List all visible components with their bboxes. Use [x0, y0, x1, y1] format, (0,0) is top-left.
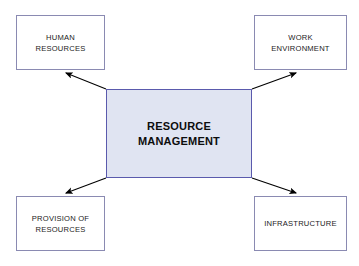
node-human-resources[interactable]: HUMAN RESOURCES	[16, 15, 105, 70]
node-work-environment[interactable]: WORK ENVIRONMENT	[254, 15, 347, 70]
node-human-resources-label: HUMAN RESOURCES	[36, 32, 86, 54]
node-provision-of-resources-label: PROVISION OF RESOURCES	[32, 213, 89, 235]
connector-to-work-environment	[252, 73, 296, 89]
node-provision-of-resources[interactable]: PROVISION OF RESOURCES	[16, 196, 105, 251]
node-infrastructure-label: INFRASTRUCTURE	[264, 218, 336, 229]
connector-to-human-resources	[66, 73, 106, 89]
node-resource-management-label: RESOURCE MANAGEMENT	[138, 119, 220, 149]
node-work-environment-label: WORK ENVIRONMENT	[271, 32, 329, 54]
connector-to-provision-of-resources	[66, 178, 106, 193]
node-resource-management[interactable]: RESOURCE MANAGEMENT	[106, 89, 252, 178]
node-infrastructure[interactable]: INFRASTRUCTURE	[254, 196, 347, 251]
diagram-canvas: HUMAN RESOURCES WORK ENVIRONMENT PROVISI…	[0, 0, 359, 266]
connector-to-infrastructure	[252, 178, 296, 193]
